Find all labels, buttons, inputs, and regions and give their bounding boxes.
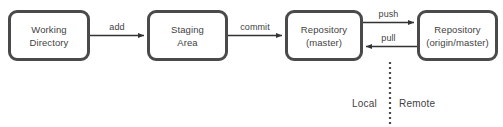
node-label-line1: Staging [171, 23, 204, 36]
node-staging-area[interactable]: Staging Area [147, 10, 228, 61]
node-label-line2: (origin/master) [426, 36, 489, 49]
edge-label-push: push [363, 9, 414, 20]
node-label-line2: Area [177, 36, 197, 49]
zone-label-remote: Remote [399, 98, 435, 110]
node-label-line1: Repository [434, 23, 480, 36]
node-repository-master[interactable]: Repository (master) [285, 10, 363, 61]
zone-label-local: Local [352, 98, 377, 110]
node-label-line2: (master) [306, 36, 342, 49]
node-label-line1: Repository [301, 23, 347, 36]
node-repository-origin-master[interactable]: Repository (origin/master) [417, 10, 498, 61]
git-workflow-diagram: Working Directory Staging Area Repositor… [0, 0, 503, 127]
node-label-line1: Working [31, 23, 66, 36]
edge-label-commit: commit [228, 22, 282, 33]
node-label-line2: Directory [30, 36, 69, 49]
edge-label-pull: pull [363, 33, 414, 44]
edge-label-add: add [90, 22, 144, 33]
node-working-directory[interactable]: Working Directory [8, 10, 90, 61]
